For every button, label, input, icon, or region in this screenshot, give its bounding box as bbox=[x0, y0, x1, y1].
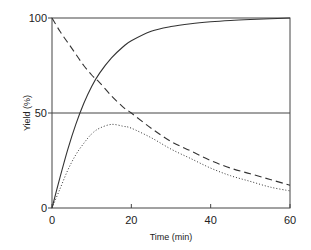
y-tick-label: 50 bbox=[35, 107, 47, 119]
x-axis-ticks: 0204060 bbox=[49, 204, 296, 226]
x-tick-label: 20 bbox=[125, 214, 137, 226]
y-axis-ticks: 050100 bbox=[29, 12, 52, 214]
x-tick-label: 0 bbox=[49, 214, 55, 226]
series-dotted-line bbox=[52, 124, 290, 208]
series-dashed-line bbox=[52, 18, 290, 185]
x-tick-label: 60 bbox=[284, 214, 296, 226]
x-axis-title: Time (min) bbox=[150, 232, 193, 242]
y-axis-title: Yield (%) bbox=[22, 95, 32, 131]
yield-vs-time-chart: 0204060 050100 Time (min) Yield (%) bbox=[0, 0, 311, 250]
y-tick-label: 0 bbox=[41, 202, 47, 214]
y-tick-label: 100 bbox=[29, 12, 47, 24]
x-tick-label: 40 bbox=[205, 214, 217, 226]
